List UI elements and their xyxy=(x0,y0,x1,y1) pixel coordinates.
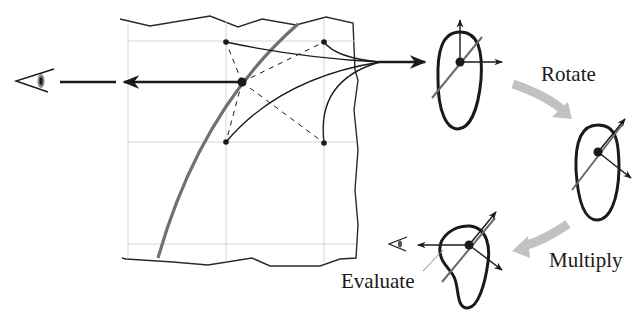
surface-panel xyxy=(120,16,380,266)
eye-icon-large xyxy=(16,69,54,92)
lobe-multiplied xyxy=(418,212,502,308)
evaluate-label: Evaluate xyxy=(341,271,414,292)
rotate-arrow xyxy=(513,84,565,112)
evaluate-leader xyxy=(423,250,443,271)
multiply-arrow xyxy=(524,224,568,246)
rotate-label: Rotate xyxy=(541,64,596,85)
diagram-canvas xyxy=(0,0,643,320)
lobe-original xyxy=(432,20,502,129)
interpolation-dashes xyxy=(226,42,324,143)
eye-icon-small xyxy=(389,237,407,251)
grid-lines xyxy=(128,18,356,262)
lobe-rotated xyxy=(572,119,631,220)
multiply-label: Multiply xyxy=(549,250,623,271)
